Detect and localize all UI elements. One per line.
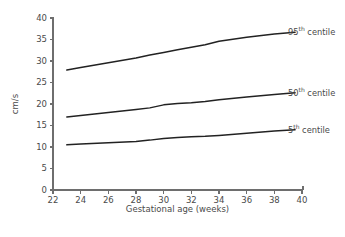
y-tick-label: 35	[36, 34, 47, 44]
y-tick-label: 25	[36, 77, 47, 87]
series-label-text: centile	[299, 125, 330, 135]
series-label-text: centile	[305, 88, 336, 98]
x-tick-label: 26	[103, 195, 114, 205]
x-tick-label: 40	[297, 195, 308, 205]
series-label-value: 95	[288, 27, 299, 37]
y-tick-label: 15	[36, 120, 47, 130]
y-axis: 0510152025303540	[36, 13, 53, 195]
series-label-text: centile	[305, 27, 336, 37]
x-tick-label: 22	[48, 195, 59, 205]
x-axis: 22242628303234363840	[48, 186, 308, 205]
y-tick-label: 5	[42, 163, 47, 173]
x-tick-label: 24	[75, 195, 86, 205]
series-line-95th-centile	[67, 32, 295, 70]
y-tick-label: 20	[36, 99, 47, 109]
series-label-5th-centile: 5th centile	[288, 126, 330, 134]
series-label-50th-centile: 50th centile	[288, 89, 335, 97]
y-tick-label: 40	[36, 13, 47, 23]
centile-chart: 0510152025303540 22242628303234363840 Ge…	[0, 0, 345, 237]
y-axis-title: cm/s	[10, 93, 20, 114]
x-tick-label: 36	[241, 195, 252, 205]
series-label-value: 50	[288, 88, 299, 98]
y-tick-label: 0	[42, 185, 47, 195]
series-line-50th-centile	[67, 93, 295, 117]
x-axis-title: Gestational age (weeks)	[126, 204, 229, 214]
y-tick-label: 30	[36, 56, 47, 66]
x-tick-label: 38	[269, 195, 280, 205]
series-lines	[67, 32, 295, 145]
series-line-5th-centile	[67, 130, 295, 145]
series-label-95th-centile: 95th centile	[288, 28, 335, 36]
y-tick-label: 10	[36, 142, 47, 152]
